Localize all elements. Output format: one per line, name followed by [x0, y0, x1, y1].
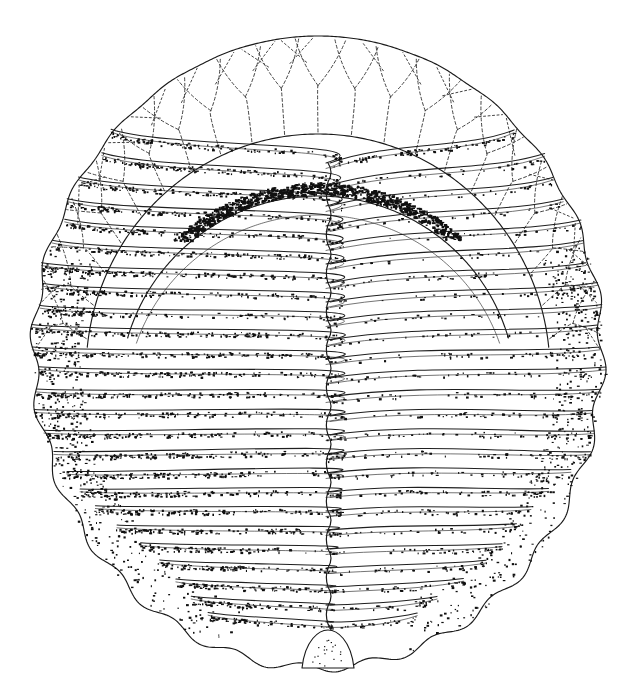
stipple-mark [124, 275, 127, 276]
stipple-mark [160, 372, 163, 374]
stipple-mark [186, 352, 189, 353]
stipple-mark [82, 451, 85, 452]
stipple-mark [130, 140, 132, 142]
stipple-mark [470, 586, 472, 588]
stipple-mark [318, 475, 320, 477]
stipple-mark [344, 300, 347, 301]
stipple-mark [583, 375, 584, 377]
stipple-mark [106, 251, 107, 252]
stipple-mark [95, 537, 98, 539]
stipple-mark [76, 251, 78, 253]
stipple-mark [156, 315, 157, 316]
stipple-mark [548, 284, 550, 286]
stipple-mark [324, 394, 326, 396]
stipple-mark [244, 567, 247, 568]
stipple-mark [384, 570, 386, 572]
stipple-mark [186, 336, 187, 337]
stipple-mark [192, 374, 195, 376]
stipple-mark [152, 295, 155, 297]
stipple-mark [308, 510, 309, 512]
stipple-mark [135, 477, 138, 478]
stipple-mark [520, 546, 522, 548]
stipple-mark [434, 151, 436, 152]
stipple-mark [389, 435, 391, 436]
stipple-mark [472, 314, 474, 315]
stipple-mark [254, 200, 256, 202]
stipple-mark [284, 173, 285, 174]
stipple-mark [185, 549, 187, 550]
stipple-mark [221, 215, 225, 218]
stipple-mark [55, 463, 56, 465]
stipple-mark [264, 392, 266, 394]
stipple-mark [126, 474, 127, 475]
stipple-mark [262, 315, 263, 317]
stipple-mark [349, 343, 352, 345]
stipple-mark [264, 453, 266, 455]
stipple-mark [161, 393, 163, 394]
stipple-mark [561, 298, 563, 300]
stipple-mark [105, 315, 108, 316]
stipple-mark [239, 475, 241, 477]
stipple-mark [150, 436, 153, 438]
stipple-mark [224, 601, 225, 602]
stipple-mark [573, 439, 575, 441]
stipple-mark [174, 416, 176, 418]
stipple-mark [96, 456, 97, 458]
stipple-mark [108, 496, 111, 497]
stipple-mark [424, 513, 426, 515]
stipple-mark [466, 416, 468, 418]
stipple-mark [216, 216, 219, 219]
stipple-mark [515, 564, 517, 566]
stipple-mark [100, 497, 102, 498]
stipple-mark [393, 588, 396, 590]
stipple-mark [107, 506, 110, 508]
stipple-mark [506, 491, 508, 493]
stipple-mark [540, 509, 541, 510]
stipple-mark [351, 190, 354, 193]
stipple-mark [539, 454, 542, 455]
stipple-mark [227, 433, 228, 435]
stipple-mark [246, 334, 249, 335]
stipple-mark [275, 335, 278, 336]
stipple-mark [80, 485, 81, 487]
stipple-mark [579, 351, 581, 353]
illustration-canvas [0, 0, 632, 691]
stipple-mark [447, 277, 449, 278]
stipple-mark [340, 495, 342, 497]
stipple-mark [374, 195, 377, 198]
stipple-mark [177, 413, 178, 415]
stipple-mark [263, 173, 265, 175]
stipple-mark [187, 569, 190, 570]
stipple-mark [417, 315, 420, 317]
stipple-mark [519, 416, 520, 418]
stipple-mark [74, 362, 76, 364]
stipple-mark [254, 150, 256, 152]
stipple-mark [195, 551, 197, 552]
stipple-mark [470, 474, 472, 475]
stipple-mark [134, 579, 137, 581]
stipple-mark [183, 455, 185, 456]
stipple-mark [571, 262, 574, 263]
stipple-mark [53, 310, 54, 312]
stipple-mark [83, 185, 85, 186]
stipple-mark [246, 452, 248, 453]
stipple-mark [427, 571, 430, 573]
stipple-mark [320, 318, 323, 320]
stipple-mark [91, 269, 93, 271]
stipple-mark [214, 588, 216, 590]
stipple-mark [172, 453, 175, 455]
stipple-mark [181, 253, 182, 255]
stipple-mark [271, 174, 272, 176]
stipple-mark [184, 531, 185, 533]
stipple-mark [514, 372, 516, 373]
stipple-mark [259, 435, 260, 437]
stipple-mark [229, 373, 232, 375]
stipple-mark [507, 544, 509, 545]
stipple-mark [170, 496, 172, 497]
stipple-mark [207, 436, 210, 438]
stipple-mark [475, 513, 478, 515]
stipple-mark [478, 557, 481, 558]
stipple-mark [475, 396, 478, 397]
stipple-mark [219, 514, 221, 515]
stipple-mark [330, 458, 332, 460]
